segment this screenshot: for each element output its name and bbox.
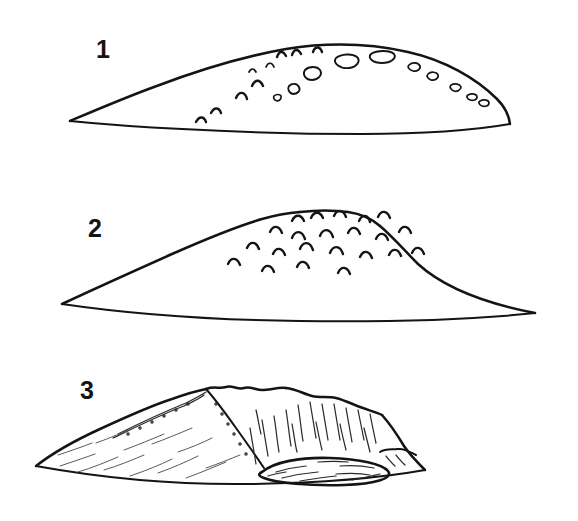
panel-1-label: 1 [96,35,110,63]
figure-canvas: 1 [0,0,578,521]
panel-3-label: 3 [80,376,94,404]
figure-background [0,0,578,521]
volcano-profiles-figure: 1 [0,0,578,521]
panel-2-label: 2 [88,214,102,242]
